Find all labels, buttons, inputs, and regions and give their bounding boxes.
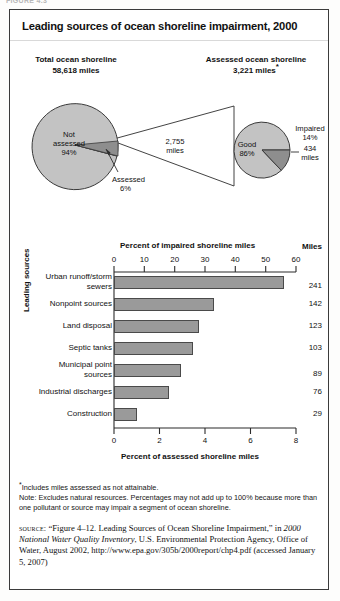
category-label-industrial-discharges: Industrial discharges	[8, 387, 112, 397]
note-line: Note: Excludes natural resources. Percen…	[19, 493, 319, 512]
source-part1: “Figure 4–12. Leading Sources of Ocean S…	[49, 523, 284, 533]
bar-municipal-point-sources	[114, 364, 181, 377]
top-tick-0: 0	[104, 255, 124, 264]
bar-urban-runoff-storm-sewers	[114, 276, 284, 289]
miles-value-construction: 29	[296, 409, 322, 418]
top-tick-30: 30	[195, 255, 215, 264]
miles-value-nonpoint-sources: 142	[296, 299, 322, 308]
bottom-tick-4: 4	[195, 436, 215, 445]
figure-page: FIGURE 4.3 Leading sources of ocean shor…	[0, 0, 340, 601]
category-label-construction: Construction	[8, 409, 112, 419]
top-tick-40: 40	[225, 255, 245, 264]
top-tick-60: 60	[286, 255, 306, 264]
bar-nonpoint-sources	[114, 298, 214, 311]
category-label-land-disposal: Land disposal	[8, 321, 112, 331]
bar-industrial-discharges	[114, 386, 169, 399]
source-label: source:	[19, 524, 46, 533]
top-tick-20: 20	[165, 255, 185, 264]
bottom-axis-title: Percent of assessed shoreline miles	[121, 452, 259, 461]
bottom-tick-8: 8	[286, 436, 306, 445]
bar-land-disposal	[114, 320, 199, 333]
category-label-septic-tanks: Septic tanks	[8, 343, 112, 353]
footnote-line: *Includes miles assessed as not attainab…	[19, 480, 319, 493]
top-tick-10: 10	[134, 255, 154, 264]
notes-block: *Includes miles assessed as not attainab…	[19, 480, 319, 512]
bottom-tick-0: 0	[104, 436, 124, 445]
bar-construction	[114, 408, 137, 421]
source-block: source: “Figure 4–12. Leading Sources of…	[19, 523, 319, 568]
category-label-municipal-point-sources: Municipal point sources	[8, 360, 112, 379]
bottom-tick-6: 6	[241, 436, 261, 445]
bar-septic-tanks	[114, 342, 193, 355]
top-tick-50: 50	[256, 255, 276, 264]
category-label-nonpoint-sources: Nonpoint sources	[8, 299, 112, 309]
category-label-urban-runoff-storm-sewers: Urban runoff/storm sewers	[8, 272, 112, 291]
miles-value-industrial-discharges: 76	[296, 387, 322, 396]
miles-value-land-disposal: 123	[296, 321, 322, 330]
miles-value-urban-runoff-storm-sewers: 241	[296, 281, 322, 290]
miles-value-municipal-point-sources: 89	[296, 369, 322, 378]
bottom-tick-2: 2	[150, 436, 170, 445]
miles-value-septic-tanks: 103	[296, 343, 322, 352]
